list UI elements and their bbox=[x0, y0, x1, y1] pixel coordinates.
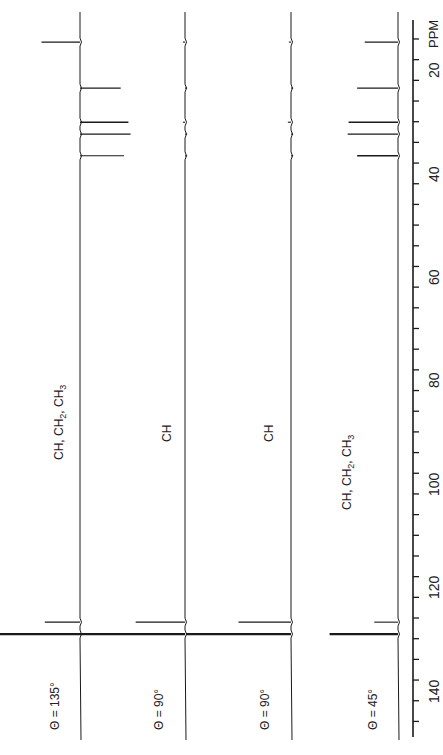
tick-label: 120 bbox=[426, 576, 442, 599]
theta-label: Θ = 90° bbox=[258, 689, 272, 730]
theta-label: Θ = 135° bbox=[48, 682, 62, 730]
ppm-axis bbox=[413, 20, 419, 737]
tick-label: 80 bbox=[426, 373, 442, 389]
assignment-label: CH bbox=[160, 425, 174, 442]
theta-label: Θ = 90° bbox=[152, 689, 166, 730]
tick-label: 60 bbox=[426, 269, 442, 285]
spectrum-4 bbox=[330, 12, 400, 740]
spectrum-1 bbox=[0, 12, 131, 740]
dept-nmr-spectra bbox=[0, 0, 443, 755]
spectra-group bbox=[0, 12, 400, 740]
baseline bbox=[291, 12, 293, 740]
assignment-label: CH, CH2, CH3 bbox=[340, 435, 356, 510]
baseline bbox=[398, 12, 400, 740]
tick-label: 20 bbox=[426, 63, 442, 79]
tick-label: 140 bbox=[426, 679, 442, 702]
baseline bbox=[185, 12, 187, 740]
spectrum-3 bbox=[186, 12, 293, 740]
spectrum-2 bbox=[80, 12, 187, 740]
tick-label: 100 bbox=[426, 473, 442, 496]
axis-unit-label: PPM bbox=[426, 20, 441, 48]
baseline bbox=[80, 12, 82, 740]
theta-label: Θ = 45° bbox=[366, 689, 380, 730]
tick-label: 40 bbox=[426, 166, 442, 182]
assignment-label: CH bbox=[262, 425, 276, 442]
assignment-label: CH, CH2, CH3 bbox=[52, 385, 68, 460]
